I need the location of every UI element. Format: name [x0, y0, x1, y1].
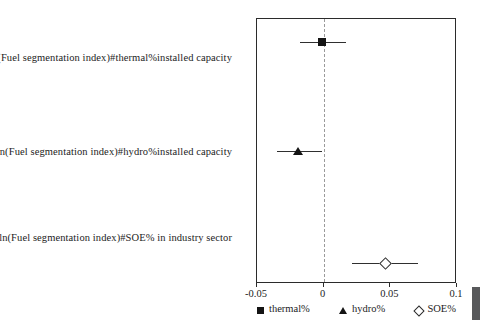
zero-reference-line: [324, 19, 325, 282]
open-diamond-icon: [414, 305, 423, 314]
x-axis-tick-label: -0.05: [245, 288, 267, 300]
estimate-marker-soe: [379, 257, 392, 270]
category-label-hydro: ln(Fuel segmentation index)#hydro%instal…: [0, 146, 232, 158]
estimate-marker-thermal: [318, 38, 326, 46]
filled-square-icon: [256, 305, 265, 314]
plot-area: [256, 18, 456, 283]
x-axis-tick-label: 0.1: [449, 288, 462, 300]
page-edge-artifact: [472, 287, 480, 320]
legend-item-thermal: thermal%: [256, 303, 310, 315]
x-axis-tick-label: 0.05: [380, 288, 398, 300]
x-axis-tick-label: 0: [320, 288, 325, 300]
legend: thermal% hydro% SOE%: [256, 303, 456, 315]
filled-triangle-icon: [339, 305, 348, 314]
legend-item-hydro: hydro%: [339, 303, 385, 315]
legend-label-soe: SOE%: [427, 303, 456, 315]
legend-label-thermal: thermal%: [269, 303, 310, 315]
legend-label-hydro: hydro%: [352, 303, 385, 315]
coefficient-plot-figure: ln(Fuel segmentation index)#thermal%inst…: [0, 0, 480, 328]
x-axis-tick: [256, 283, 257, 287]
x-axis-tick: [456, 283, 457, 287]
category-label-thermal: ln(Fuel segmentation index)#thermal%inst…: [0, 52, 232, 64]
estimate-marker-hydro: [293, 147, 303, 155]
category-label-soe: ln(Fuel segmentation index)#SOE% in indu…: [0, 232, 232, 244]
x-axis-tick: [323, 283, 324, 287]
legend-item-soe: SOE%: [414, 303, 456, 315]
x-axis-tick: [389, 283, 390, 287]
